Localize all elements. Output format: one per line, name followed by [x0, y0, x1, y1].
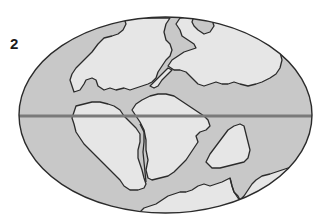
paleogeography-figure: 2 [0, 0, 332, 222]
world-map [0, 0, 332, 222]
